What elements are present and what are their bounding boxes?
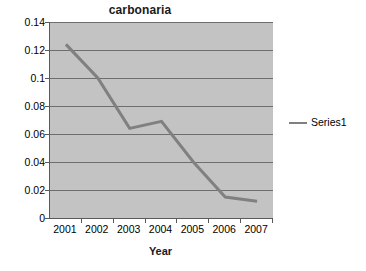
chart-legend: Series1 bbox=[289, 117, 347, 128]
y-axis-tick-label: 0.1 bbox=[0, 73, 45, 83]
y-axis-tick-label: 0.04 bbox=[0, 157, 45, 167]
x-axis-tick-label: 2003 bbox=[117, 223, 140, 235]
x-axis-tick-mark bbox=[272, 219, 273, 223]
series-lines bbox=[50, 22, 273, 218]
y-axis-tick-label: 0.06 bbox=[0, 129, 45, 139]
x-axis-tick-mark bbox=[208, 219, 209, 223]
x-axis-tick-label: 2007 bbox=[244, 223, 267, 235]
y-axis: 00.020.040.060.080.10.120.14 bbox=[0, 0, 45, 271]
x-axis-tick-mark bbox=[81, 219, 82, 223]
y-axis-tick-label: 0.12 bbox=[0, 45, 45, 55]
y-axis-tick-label: 0.02 bbox=[0, 185, 45, 195]
x-axis-tick-mark bbox=[176, 219, 177, 223]
x-axis-tick-mark bbox=[113, 219, 114, 223]
series1-line-swatch bbox=[289, 122, 307, 124]
x-axis-tick-label: 2006 bbox=[213, 223, 236, 235]
x-axis-tick-label: 2005 bbox=[181, 223, 204, 235]
x-axis-tick-label: 2001 bbox=[53, 223, 76, 235]
series-line bbox=[66, 44, 257, 201]
x-axis: 2001200220032004200520062007 bbox=[49, 223, 272, 239]
legend-entry-label: Series1 bbox=[311, 117, 347, 128]
y-axis-tick-label: 0 bbox=[0, 213, 45, 223]
x-axis-title: Year bbox=[49, 245, 272, 257]
x-axis-tick-mark bbox=[145, 219, 146, 223]
y-axis-tick-label: 0.14 bbox=[0, 17, 45, 27]
x-axis-tick-label: 2004 bbox=[149, 223, 172, 235]
plot-area bbox=[49, 22, 273, 219]
x-axis-tick-label: 2002 bbox=[85, 223, 108, 235]
chart-container: carbonaria 00.020.040.060.080.10.120.14 … bbox=[0, 0, 366, 271]
y-axis-tick-label: 0.08 bbox=[0, 101, 45, 111]
x-axis-tick-mark bbox=[240, 219, 241, 223]
